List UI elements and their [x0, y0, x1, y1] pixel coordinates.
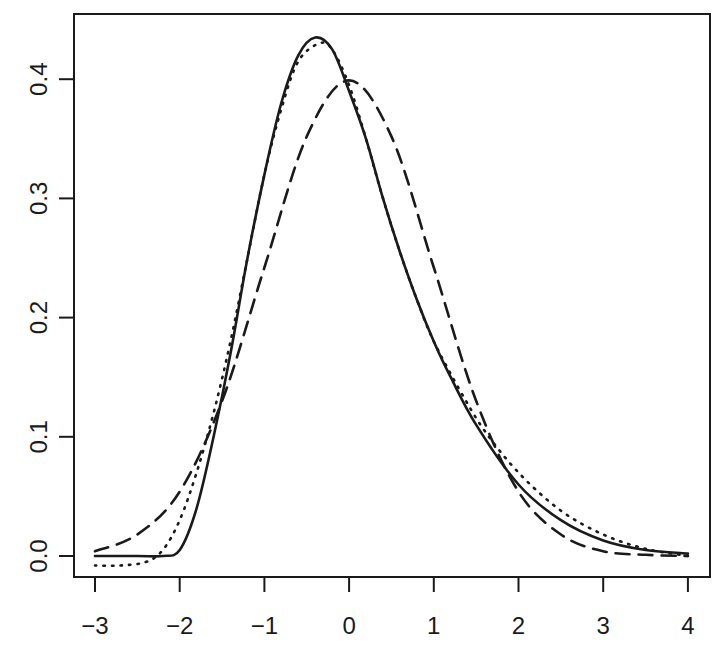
y-tick-label: 0.3 [25, 182, 52, 215]
x-tick-label: −3 [81, 612, 108, 639]
x-axis: −3−2−101234 [81, 577, 694, 639]
y-tick-label: 0.0 [25, 539, 52, 572]
x-tick-label: −1 [251, 612, 278, 639]
x-tick-label: 1 [427, 612, 440, 639]
density-plot: −3−2−101234 0.00.10.20.30.4 [0, 0, 723, 646]
x-tick-label: −2 [166, 612, 193, 639]
x-tick-label: 0 [342, 612, 355, 639]
y-axis: 0.00.10.20.30.4 [25, 63, 74, 573]
series-dashed-line [95, 80, 688, 556]
series-dotted-line [95, 43, 688, 566]
series-group [95, 37, 688, 565]
x-tick-label: 2 [512, 612, 525, 639]
x-tick-label: 4 [681, 612, 694, 639]
y-tick-label: 0.4 [25, 63, 52, 96]
y-tick-label: 0.1 [25, 420, 52, 453]
y-tick-label: 0.2 [25, 301, 52, 334]
plot-frame [74, 14, 710, 577]
series-solid-line [95, 37, 688, 556]
x-tick-label: 3 [597, 612, 610, 639]
